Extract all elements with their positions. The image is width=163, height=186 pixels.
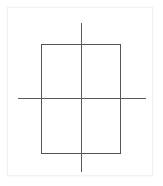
figure-root — [0, 0, 163, 186]
figure-canvas — [0, 0, 163, 186]
